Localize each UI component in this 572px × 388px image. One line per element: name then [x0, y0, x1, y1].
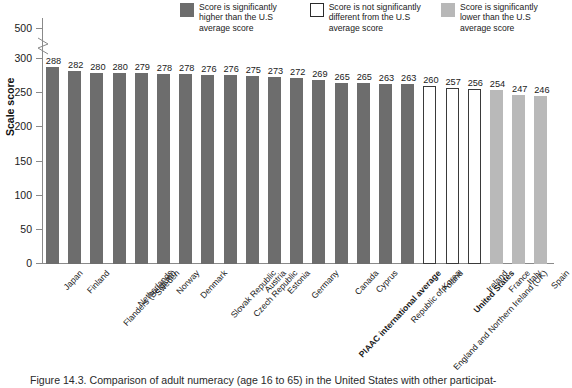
bar[interactable] — [379, 84, 392, 264]
bar-slot: 272 — [287, 18, 308, 264]
bar-slot: 256 — [465, 18, 486, 264]
bar-value-label: 263 — [379, 73, 394, 83]
x-axis-label: Germany — [309, 268, 340, 301]
bar-slot: 278 — [176, 18, 197, 264]
bar-value-label: 276 — [223, 64, 238, 74]
bar[interactable] — [335, 83, 348, 264]
y-axis-tick — [36, 161, 42, 162]
bar-slot: 276 — [198, 18, 219, 264]
bar-value-label: 276 — [201, 64, 216, 74]
y-axis-tick — [36, 263, 42, 264]
bar-value-label: 247 — [512, 84, 527, 94]
y-axis-tick-label: 300 — [0, 52, 32, 64]
bar-slot: 265 — [332, 18, 353, 264]
bar-value-label: 257 — [445, 77, 460, 87]
bar-slot: 246 — [531, 18, 552, 264]
bar-value-label: 273 — [268, 66, 283, 76]
y-axis-tick — [36, 195, 42, 196]
bar[interactable] — [468, 89, 481, 264]
bar[interactable] — [423, 86, 436, 264]
y-axis-tick — [36, 58, 42, 59]
y-axis-tick-label: 0 — [0, 257, 32, 269]
bar[interactable] — [46, 67, 59, 264]
bar[interactable] — [179, 74, 192, 264]
bar[interactable] — [312, 80, 325, 264]
bar-series: 2882822802802792782782762762752732722692… — [43, 18, 554, 264]
y-axis-tick-label: 250 — [0, 86, 32, 98]
bar-slot: 269 — [309, 18, 330, 264]
bar[interactable] — [490, 90, 503, 264]
y-axis-tick — [36, 229, 42, 230]
bar-slot: 263 — [398, 18, 419, 264]
x-axis-label: Canada — [352, 268, 380, 297]
x-axis-label: Denmark — [198, 268, 229, 300]
bar-slot: 278 — [154, 18, 175, 264]
bar-value-label: 278 — [179, 63, 194, 73]
bar[interactable] — [357, 83, 370, 264]
bar-slot: 280 — [110, 18, 131, 264]
bar[interactable] — [290, 78, 303, 264]
bar[interactable] — [268, 77, 281, 264]
bar-slot: 276 — [221, 18, 242, 264]
bar[interactable] — [446, 88, 459, 264]
bar[interactable] — [68, 71, 81, 264]
bar-value-label: 280 — [90, 62, 105, 72]
x-axis-label: Japan — [61, 268, 84, 292]
open-white-swatch-icon — [310, 3, 324, 17]
x-axis-labels: JapanFinlandFlanders (Belgium)Netherland… — [43, 266, 555, 364]
bar[interactable] — [512, 95, 525, 264]
y-axis-tick-label: 100 — [0, 189, 32, 201]
bar-slot: 282 — [65, 18, 86, 264]
bar[interactable] — [135, 73, 148, 264]
bar[interactable] — [224, 75, 237, 264]
bar-value-label: 246 — [534, 85, 549, 95]
bar-value-label: 278 — [157, 63, 172, 73]
bar-value-label: 269 — [312, 69, 327, 79]
y-axis-tick — [36, 126, 42, 127]
x-axis-label: Poland — [440, 268, 466, 294]
bar[interactable] — [534, 96, 547, 264]
bar[interactable] — [113, 73, 126, 264]
bar-value-label: 279 — [135, 62, 150, 72]
bar-value-label: 272 — [290, 67, 305, 77]
bar-value-label: 263 — [401, 73, 416, 83]
bar[interactable] — [90, 73, 103, 264]
y-axis-tick-label: 50 — [0, 223, 32, 235]
bar-slot: 263 — [376, 18, 397, 264]
bar-value-label: 265 — [334, 72, 349, 82]
chart-plot-area: Scale score 500300250200150100500 288282… — [42, 18, 554, 264]
bar-value-label: 282 — [68, 60, 83, 70]
bar[interactable] — [401, 84, 414, 264]
bar-slot: 288 — [43, 18, 64, 264]
y-axis-tick — [36, 28, 42, 29]
y-axis-tick — [36, 92, 42, 93]
y-axis-tick-label: 200 — [0, 120, 32, 132]
figure-caption: Figure 14.3. Comparison of adult numerac… — [30, 374, 554, 387]
bar-slot: 254 — [487, 18, 508, 264]
bar-slot: 265 — [354, 18, 375, 264]
y-axis-tick-label: 150 — [0, 155, 32, 167]
bar-value-label: 288 — [46, 56, 61, 66]
x-axis-label: Spain — [549, 268, 571, 291]
bar-slot: 275 — [243, 18, 264, 264]
bar-slot: 280 — [87, 18, 108, 264]
bar-slot: 273 — [265, 18, 286, 264]
bar-slot: 260 — [420, 18, 441, 264]
bar-slot: 279 — [132, 18, 153, 264]
bar-value-label: 265 — [357, 72, 372, 82]
bar-value-label: 260 — [423, 75, 438, 85]
bar-value-label: 275 — [246, 65, 261, 75]
dark-gray-swatch-icon — [180, 3, 194, 17]
bar-value-label: 256 — [468, 78, 483, 88]
bar-slot: 257 — [443, 18, 464, 264]
bar-slot: 247 — [509, 18, 530, 264]
bar[interactable] — [201, 75, 214, 264]
x-axis-label: Finland — [85, 268, 112, 295]
bar-value-label: 254 — [490, 79, 505, 89]
bar-value-label: 280 — [112, 62, 127, 72]
bar[interactable] — [157, 74, 170, 264]
bar[interactable] — [246, 76, 259, 264]
light-gray-swatch-icon — [441, 3, 455, 17]
y-axis-tick-label: 500 — [0, 22, 32, 34]
